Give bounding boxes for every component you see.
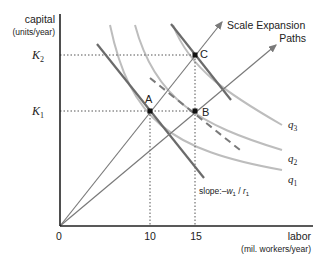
point-a-label: A [145, 93, 153, 105]
x-tick-15: 15 [190, 230, 202, 242]
point-c [193, 53, 198, 58]
point-a [148, 109, 153, 114]
slope-label: slope:–w1 / r1 [199, 186, 250, 197]
y-axis-unit: (units/year) [12, 27, 55, 37]
x-tick-10: 10 [144, 230, 156, 242]
isoquant-q2-label: q2 [288, 152, 298, 167]
expansion-paths-label-line2: Paths [279, 32, 306, 44]
isoquant-q1 [110, 25, 282, 170]
isoquant-q1-label: q1 [288, 173, 298, 188]
isocost-line-c [171, 24, 231, 100]
x-tick-0: 0 [56, 230, 62, 242]
isoquant-q3-label: q3 [288, 118, 298, 133]
y-tick-k1: K1 [31, 104, 44, 120]
y-axis-label: capital [25, 13, 55, 25]
x-axis-unit: (mil. workers/year) [241, 244, 311, 254]
expansion-paths-label-line1: Scale Expansion [227, 19, 305, 31]
point-c-label: C [200, 48, 208, 60]
isoquant-q2 [135, 25, 282, 150]
expansion-path-shallow [60, 45, 276, 226]
x-axis-label: labor [288, 230, 312, 242]
y-tick-k2: K2 [31, 48, 44, 64]
expansion-path-steep [60, 22, 222, 226]
point-b-label: B [202, 106, 209, 118]
diagram: A B C capital (units/year) K2 K1 0 10 15… [0, 0, 327, 261]
point-b [193, 109, 198, 114]
